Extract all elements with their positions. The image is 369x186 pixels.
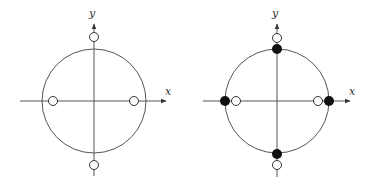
y-axis-label: y	[271, 7, 279, 20]
x-axis-label: x	[349, 85, 356, 98]
x-axis-label: x	[165, 85, 172, 98]
open-point	[90, 161, 99, 170]
open-point	[273, 34, 282, 43]
filled-point	[324, 96, 334, 106]
open-point	[273, 161, 282, 170]
open-point	[90, 33, 99, 42]
filled-point	[220, 96, 230, 106]
open-point	[130, 97, 139, 106]
y-axis-label: y	[88, 7, 96, 20]
left-diagram: x y	[20, 7, 172, 176]
right-diagram: x y	[203, 7, 356, 177]
diagram-canvas: x y x y	[0, 0, 369, 186]
filled-point	[272, 44, 282, 54]
filled-point	[272, 149, 282, 159]
open-point	[49, 97, 58, 106]
open-point	[232, 97, 241, 106]
open-point	[314, 97, 323, 106]
